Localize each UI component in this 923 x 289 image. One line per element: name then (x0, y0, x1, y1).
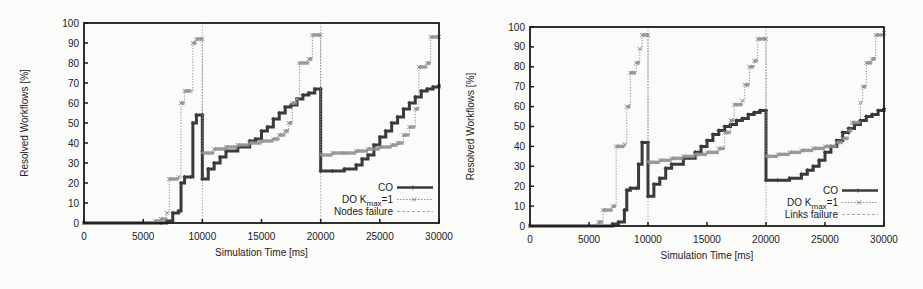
x-tick-label: 25000 (811, 234, 839, 245)
y-tick-label: 80 (514, 61, 526, 72)
do-x-marker-icon (165, 211, 169, 215)
x-tick-label: 0 (81, 231, 87, 242)
y-tick-label: 50 (68, 118, 80, 129)
plot-frame (84, 23, 439, 223)
y-tick-label: 60 (514, 101, 526, 112)
y-tick-label: 30 (68, 158, 80, 169)
x-tick-label: 10000 (188, 231, 216, 242)
x-tick-label: 10000 (634, 234, 662, 245)
legend-label-failure: Nodes failure (334, 206, 393, 217)
y-tick-label: 70 (68, 78, 80, 89)
legend-label-co: CO (378, 182, 393, 193)
x-tick-label: 30000 (870, 234, 898, 245)
chart-nodes-failure: 0102030405060708090100050001000015000200… (19, 18, 453, 259)
y-axis-label: Resolved Workflows [%] (465, 72, 476, 180)
x-tick-label: 15000 (693, 234, 721, 245)
x-tick-label: 20000 (307, 231, 335, 242)
x-axis-label: Simulation Time [ms] (215, 247, 308, 258)
y-tick-label: 20 (514, 181, 526, 192)
y-tick-label: 90 (68, 38, 80, 49)
x-tick-label: 25000 (366, 231, 394, 242)
x-tick-label: 5000 (132, 231, 155, 242)
legend-label-co: CO (823, 185, 838, 196)
y-tick-label: 90 (514, 41, 526, 52)
x-tick-label: 5000 (578, 234, 601, 245)
x-tick-label: 0 (527, 234, 533, 245)
do-x-marker-icon (638, 47, 642, 51)
y-tick-label: 70 (514, 81, 526, 92)
y-tick-label: 60 (68, 98, 80, 109)
x-tick-label: 20000 (752, 234, 780, 245)
y-tick-label: 0 (73, 218, 79, 229)
figure: 0102030405060708090100050001000015000200… (0, 0, 923, 289)
chart-links-failure: 0102030405060708090100050001000015000200… (465, 22, 898, 262)
y-tick-label: 80 (68, 58, 80, 69)
y-tick-label: 0 (519, 221, 525, 232)
x-tick-label: 15000 (248, 231, 276, 242)
y-tick-label: 100 (508, 22, 525, 33)
legend-label-failure: Links failure (785, 209, 839, 220)
y-tick-label: 10 (514, 201, 526, 212)
y-tick-label: 20 (68, 178, 80, 189)
y-tick-label: 50 (514, 121, 526, 132)
y-tick-label: 10 (68, 198, 80, 209)
x-tick-label: 30000 (425, 231, 453, 242)
y-tick-label: 100 (62, 18, 79, 29)
y-tick-label: 40 (514, 141, 526, 152)
x-axis-label: Simulation Time [ms] (661, 250, 754, 261)
y-axis-label: Resolved Workflows [%] (19, 69, 30, 177)
y-tick-label: 40 (68, 138, 80, 149)
y-tick-label: 30 (514, 161, 526, 172)
